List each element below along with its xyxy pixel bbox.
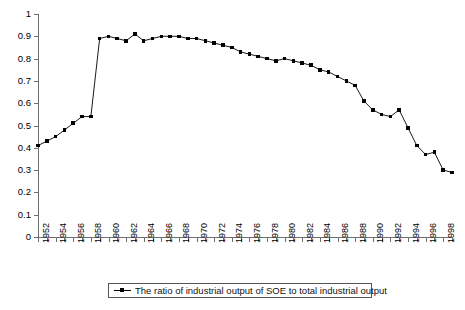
x-axis-label: 1990	[376, 223, 385, 243]
x-axis-tick	[249, 238, 250, 242]
x-axis-tick	[373, 238, 374, 242]
x-axis-tick	[179, 238, 180, 242]
x-axis-tick	[73, 238, 74, 242]
x-axis-label: 1982	[306, 223, 315, 243]
y-axis-tick	[34, 36, 39, 37]
x-axis-label: 1954	[59, 223, 68, 243]
x-axis-tick	[144, 238, 145, 242]
data-point-marker	[283, 57, 287, 61]
y-axis-tick	[34, 81, 39, 82]
data-point-marker	[397, 108, 401, 112]
x-axis-tick	[267, 238, 268, 242]
data-point-marker	[133, 32, 137, 36]
x-axis-tick	[320, 238, 321, 242]
x-axis-label: 1974	[235, 223, 244, 243]
data-point-marker	[63, 128, 67, 132]
x-axis-tick	[38, 238, 39, 242]
y-axis-tick	[34, 192, 39, 193]
data-point-marker	[371, 108, 375, 112]
x-axis-label: 1988	[359, 223, 368, 243]
y-axis-label: 0.6	[0, 98, 31, 108]
chart-legend: The ratio of industrial output of SOE to…	[108, 283, 372, 298]
data-point-marker	[336, 75, 340, 79]
data-point-marker	[71, 121, 75, 125]
x-axis-label: 1962	[130, 223, 139, 243]
y-axis-label: 0.2	[0, 187, 31, 197]
legend-label: The ratio of industrial output of SOE to…	[135, 286, 387, 296]
data-point-marker	[362, 99, 366, 103]
x-axis-label: 1994	[412, 223, 421, 243]
data-point-marker	[345, 79, 349, 83]
chart-figure: 10.90.80.70.60.50.40.30.20.10 1952195419…	[0, 0, 465, 310]
x-axis-tick	[214, 238, 215, 242]
data-point-marker	[142, 39, 146, 43]
y-axis-label: 0.3	[0, 165, 31, 175]
data-point-marker	[45, 139, 49, 143]
data-point-marker	[353, 84, 357, 88]
y-axis-label: 1	[0, 9, 31, 19]
data-point-marker	[424, 153, 428, 157]
data-point-marker	[54, 135, 58, 139]
data-point-marker	[389, 115, 393, 119]
data-point-marker	[177, 35, 181, 39]
data-point-marker	[160, 35, 164, 39]
x-axis-tick	[91, 238, 92, 242]
y-axis-label: 0.9	[0, 31, 31, 41]
y-axis-tick	[34, 59, 39, 60]
x-axis-tick	[355, 238, 356, 242]
x-axis-tick	[390, 238, 391, 242]
x-axis-tick	[302, 238, 303, 242]
x-axis-tick	[443, 238, 444, 242]
x-axis-tick	[126, 238, 127, 242]
x-axis-label: 1964	[147, 223, 156, 243]
x-axis-tick	[426, 238, 427, 242]
y-axis-label: 0.8	[0, 54, 31, 64]
x-axis-label: 1978	[271, 223, 280, 243]
x-axis-tick	[197, 238, 198, 242]
x-axis-tick	[109, 238, 110, 242]
data-point-marker	[265, 57, 269, 61]
data-point-marker	[309, 63, 313, 67]
x-axis-label: 1966	[165, 223, 174, 243]
data-point-marker	[292, 59, 296, 63]
y-axis-tick	[34, 126, 39, 127]
y-axis-label: 0.1	[0, 210, 31, 220]
x-axis-label: 1998	[447, 223, 456, 243]
data-point-marker	[380, 113, 384, 117]
data-point-marker	[204, 39, 208, 43]
x-axis-tick	[408, 238, 409, 242]
data-point-marker	[221, 43, 225, 47]
x-axis-tick	[161, 238, 162, 242]
x-axis-label: 1972	[218, 223, 227, 243]
data-point-marker	[115, 37, 119, 41]
x-axis-label: 1970	[200, 223, 209, 243]
x-axis-label: 1980	[288, 223, 297, 243]
data-point-marker	[450, 171, 454, 175]
data-point-marker	[256, 55, 260, 59]
data-point-marker	[441, 168, 445, 172]
x-axis-label: 1958	[94, 223, 103, 243]
data-point-marker	[89, 115, 93, 119]
data-point-marker	[36, 144, 40, 148]
data-point-marker	[80, 115, 84, 119]
x-axis-label: 1960	[112, 223, 121, 243]
data-point-marker	[406, 126, 410, 130]
x-axis-label: 1968	[182, 223, 191, 243]
data-point-marker	[274, 59, 278, 63]
x-axis-label: 1986	[341, 223, 350, 243]
y-axis-tick	[34, 215, 39, 216]
y-axis-label: 0.5	[0, 121, 31, 131]
data-point-marker	[98, 37, 102, 41]
data-point-marker	[318, 68, 322, 72]
x-axis-tick	[338, 238, 339, 242]
y-axis-tick	[34, 103, 39, 104]
data-point-marker	[168, 35, 172, 39]
x-axis-label: 1996	[429, 223, 438, 243]
x-axis-label: 1952	[42, 223, 51, 243]
data-point-marker	[300, 61, 304, 65]
y-axis-label: 0.7	[0, 76, 31, 86]
x-axis-tick	[56, 238, 57, 242]
data-point-marker	[195, 37, 199, 41]
y-axis-tick	[34, 14, 39, 15]
x-axis-tick	[232, 238, 233, 242]
